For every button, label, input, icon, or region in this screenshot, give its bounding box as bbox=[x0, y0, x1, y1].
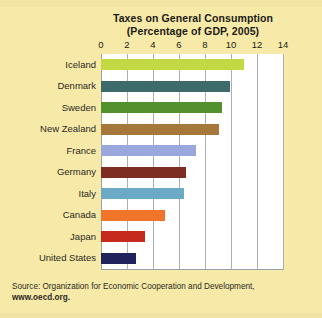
x-tick-label: 14 bbox=[278, 39, 289, 50]
bar-row bbox=[101, 97, 222, 119]
source-line-1: Source: Organization for Economic Cooper… bbox=[12, 282, 255, 291]
plot-bottom-border bbox=[101, 269, 284, 270]
bar bbox=[101, 124, 219, 135]
source-note: Source: Organization for Economic Cooper… bbox=[12, 281, 312, 303]
x-tick-label: 0 bbox=[98, 39, 103, 50]
chart-figure: Taxes on General Consumption (Percentage… bbox=[0, 0, 322, 318]
bar bbox=[101, 188, 184, 199]
bar-row bbox=[101, 54, 244, 76]
category-label: Denmark bbox=[57, 80, 96, 92]
x-axis-tick-labels: 02468101214 bbox=[0, 39, 322, 53]
bar-row bbox=[101, 119, 219, 141]
category-label: New Zealand bbox=[40, 123, 96, 135]
bottom-edge-strip bbox=[0, 313, 322, 318]
source-url: www.oecd.org. bbox=[12, 292, 312, 303]
top-edge-strip bbox=[0, 0, 322, 7]
category-label: Japan bbox=[70, 231, 96, 243]
x-tick-label: 2 bbox=[124, 39, 129, 50]
bar bbox=[101, 210, 165, 221]
bar-row bbox=[101, 140, 196, 162]
x-tick-label: 6 bbox=[176, 39, 181, 50]
gridline bbox=[231, 54, 232, 269]
bar bbox=[101, 167, 186, 178]
bar-row bbox=[101, 76, 230, 98]
gridline bbox=[257, 54, 258, 269]
bar bbox=[101, 145, 196, 156]
category-label: Germany bbox=[57, 166, 96, 178]
gridline bbox=[283, 54, 284, 269]
bar-row bbox=[101, 183, 184, 205]
x-tick-label: 4 bbox=[150, 39, 155, 50]
bar bbox=[101, 253, 136, 264]
category-label: Sweden bbox=[62, 102, 96, 114]
category-label: Italy bbox=[79, 188, 96, 200]
bar-row bbox=[101, 226, 145, 248]
chart-subtitle: (Percentage of GDP, 2005) bbox=[88, 25, 298, 38]
bar bbox=[101, 81, 230, 92]
category-label: Iceland bbox=[65, 59, 96, 71]
x-tick-label: 8 bbox=[202, 39, 207, 50]
category-label: Canada bbox=[63, 209, 96, 221]
chart-title-block: Taxes on General Consumption (Percentage… bbox=[88, 12, 298, 38]
category-label: United States bbox=[39, 252, 96, 264]
bar-row bbox=[101, 248, 136, 270]
x-tick-label: 10 bbox=[226, 39, 237, 50]
bar-row bbox=[101, 205, 165, 227]
chart-title: Taxes on General Consumption bbox=[113, 12, 273, 24]
bar bbox=[101, 59, 244, 70]
bar bbox=[101, 102, 222, 113]
bar bbox=[101, 231, 145, 242]
x-tick-label: 12 bbox=[252, 39, 263, 50]
category-label: France bbox=[66, 145, 96, 157]
bar-row bbox=[101, 162, 186, 184]
